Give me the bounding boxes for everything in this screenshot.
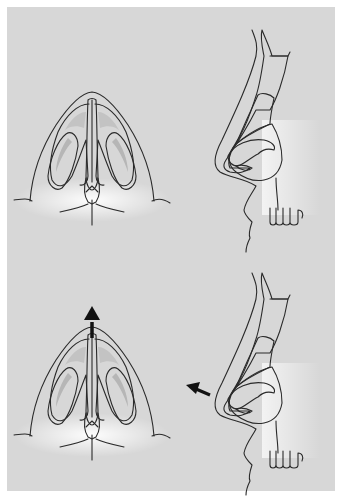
- panel-top-lateral-view: [215, 30, 320, 252]
- arrow-anterior-icon: [186, 382, 210, 395]
- panel-bottom-basal-view: [14, 306, 170, 460]
- arrow-up-icon: [84, 306, 100, 338]
- panel-bottom-lateral-view: [186, 273, 320, 495]
- panel-top-basal-view: [14, 92, 170, 225]
- nasal-anatomy-illustration: [0, 0, 342, 497]
